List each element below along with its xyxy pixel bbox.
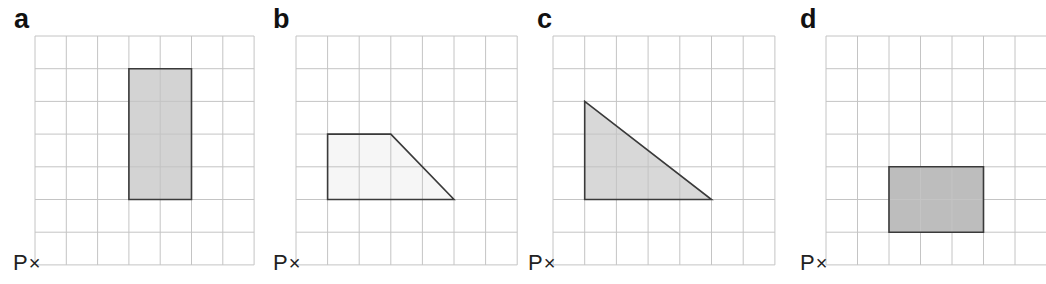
grid-diagram [0, 0, 1046, 284]
panel-d: d P× [0, 0, 1046, 284]
origin-point-p: P× [800, 250, 827, 276]
origin-letter: P [800, 250, 815, 275]
cross-marker-icon: × [816, 252, 828, 274]
